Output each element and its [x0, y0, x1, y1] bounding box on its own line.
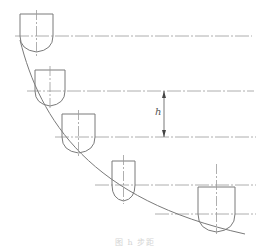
ball-end-cutters: [20, 10, 235, 234]
cutter-2: [35, 66, 65, 110]
step-height-dimension: [162, 91, 166, 137]
cutter-1: [20, 10, 53, 56]
step-height-label: h: [155, 106, 161, 117]
figure-caption: 图 h 步距: [0, 236, 270, 247]
cutter-4: [112, 155, 135, 204]
cutter-path-diagram: [0, 0, 270, 251]
cutter-3: [62, 110, 95, 157]
arrow-down-icon: [162, 130, 166, 137]
arrow-up-icon: [162, 91, 166, 98]
